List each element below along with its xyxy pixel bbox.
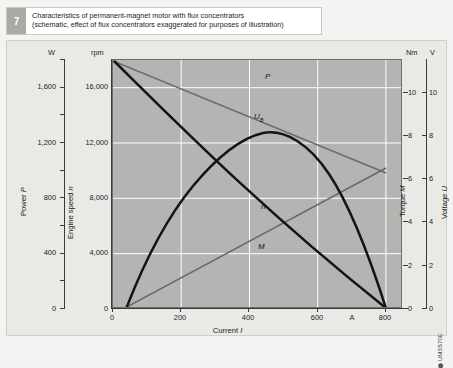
plot-svg: [113, 60, 402, 308]
axis-title-torque: Torque M: [398, 185, 407, 217]
curve-label-ub: UB: [254, 112, 264, 123]
tick-speed-0: 0: [67, 304, 108, 313]
axis-line-speed: [111, 59, 112, 309]
source-credit: UMS570E: [436, 333, 443, 368]
tick-current-0: 0: [110, 313, 114, 322]
caption-line-1: Characteristics of permanent-magnet moto…: [32, 11, 321, 20]
caption-line-2: (schematic, effect of flux concentrators…: [32, 20, 321, 29]
tick-torque-6: 6: [408, 174, 422, 183]
tick-speed-16000: 16,000: [67, 82, 108, 91]
axis-unit-speed: rpm: [91, 48, 104, 57]
curve-p: [126, 132, 386, 308]
tick-torque-10: 10: [408, 88, 422, 97]
tick-torque-8: 8: [408, 131, 422, 140]
figure-caption-text: Characteristics of permanent-magnet moto…: [26, 8, 321, 34]
tick-voltage-0: 0: [429, 304, 443, 313]
tick-power-400: 400: [20, 248, 56, 257]
tick-torque-0: 0: [408, 304, 422, 313]
curve-m: [123, 168, 386, 308]
tick-current-400: 400: [242, 313, 254, 322]
tick-voltage-2: 2: [429, 261, 443, 270]
curve-label-p: P: [265, 72, 270, 81]
axis-title-voltage: Voltage U: [440, 186, 449, 219]
plot-area: P UB n M: [112, 59, 402, 308]
tick-power-1600: 1,600: [20, 82, 56, 91]
curve-label-m: M: [258, 242, 265, 251]
tick-voltage-6: 6: [429, 174, 443, 183]
tick-torque-4: 4: [408, 217, 422, 226]
tick-speed-12000: 12,000: [67, 138, 108, 147]
axis-title-current: Current I: [7, 326, 448, 335]
credit-dot-icon: [438, 363, 443, 368]
axis-unit-voltage: V: [430, 48, 435, 57]
tick-torque-2: 2: [408, 261, 422, 270]
tick-power-0: 0: [20, 304, 56, 313]
axis-unit-current: A: [350, 313, 355, 322]
figure-number-badge: 7: [7, 8, 26, 34]
tick-voltage-8: 8: [429, 131, 443, 140]
axis-line-voltage: [426, 59, 427, 309]
axis-line-current: [112, 308, 403, 309]
axis-title-speed: Engine speed n: [66, 186, 75, 239]
axis-unit-torque: Nm: [406, 48, 418, 57]
tick-current-800: 800: [379, 313, 391, 322]
axis-line-power: [64, 59, 65, 309]
curve-label-n: n: [261, 202, 265, 211]
tick-voltage-10: 10: [429, 88, 443, 97]
tick-current-200: 200: [174, 313, 186, 322]
tick-current-600: 600: [311, 313, 323, 322]
axis-title-power: Power P: [19, 187, 28, 216]
chart-figure: P UB n M W 0 400 800 1,200 1,600 Power P…: [6, 40, 447, 336]
tick-power-1200: 1,200: [20, 138, 56, 147]
tick-speed-4000: 4,000: [67, 248, 108, 257]
credit-text: UMS570E: [436, 333, 443, 361]
axis-unit-power: W: [48, 48, 55, 57]
figure-caption: 7 Characteristics of permanent-magnet mo…: [6, 7, 322, 35]
